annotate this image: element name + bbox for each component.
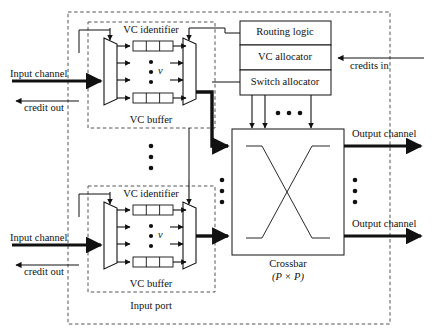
vc-ellipsis-bottom — [149, 224, 153, 248]
credit-out-label-top: credit out — [24, 102, 64, 113]
output-channel-label-bottom: Output channel — [352, 218, 416, 229]
demux-to-buffer-arrows-top — [117, 46, 130, 98]
crossbar-size-label: (P × P) — [272, 271, 304, 282]
vc-ellipsis-top — [149, 60, 153, 84]
crossbar-input-ellipsis — [220, 178, 225, 205]
vc-buffer-label-bottom: VC buffer — [130, 278, 173, 289]
credits-in-label: credits in — [350, 60, 389, 71]
vc-identifier-demux-top — [104, 38, 117, 105]
input-channel-label-bottom: Input channel — [10, 232, 67, 243]
vc-count-symbol-top: v — [158, 65, 163, 76]
switch-allocator-label: Switch allocator — [251, 76, 320, 87]
credit-out-label-bottom: credit out — [24, 266, 64, 277]
vc-buffer-label-top: VC buffer — [130, 114, 173, 125]
vc-output-mux-bottom — [183, 202, 196, 269]
datapath-top-to-crossbar — [196, 92, 228, 146]
output-channel-label-top: Output channel — [352, 128, 416, 139]
routing-logic-input-line — [225, 28, 240, 33]
vc-allocator-label: VC allocator — [258, 51, 312, 62]
mux-control-line-top — [189, 28, 225, 40]
crossbar-block — [232, 129, 344, 255]
demux-to-buffer-arrows-bottom — [117, 210, 130, 262]
input-port-label: Input port — [130, 300, 172, 311]
vc-count-symbol-bottom: v — [158, 229, 163, 240]
vc-output-mux-top — [183, 38, 196, 105]
vc-identifier-label-top: VC identifier — [123, 24, 179, 35]
input-channel-label-top: Input channel — [10, 68, 67, 79]
vc-identifier-demux-bottom — [104, 202, 117, 269]
crossbar-label: Crossbar — [269, 258, 306, 269]
vc-identifier-label-bottom: VC identifier — [123, 188, 179, 199]
switch-allocator-control-arrows — [252, 95, 311, 128]
input-port-ellipsis — [149, 144, 154, 171]
diagram-canvas — [0, 0, 432, 333]
routing-logic-label: Routing logic — [256, 26, 313, 37]
router-architecture-diagram: Routing logic VC allocator Switch alloca… — [0, 0, 432, 333]
crossbar-output-ellipsis — [353, 178, 358, 205]
